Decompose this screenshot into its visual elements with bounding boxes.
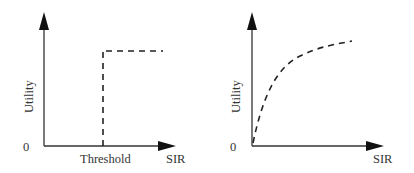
- concave-dashed-curve: [253, 41, 352, 143]
- origin-label: 0: [23, 140, 29, 154]
- y-axis-label: Utility: [229, 80, 243, 113]
- x-axis-label: SIR: [373, 152, 393, 166]
- threshold-label: Threshold: [80, 152, 131, 166]
- y-axis-arrow-icon: [247, 12, 257, 30]
- x-axis-arrow-icon: [366, 141, 384, 151]
- y-axis-label: Utility: [22, 80, 36, 113]
- utility-diagram: Utility 0 Threshold SIR Utility 0 SIR: [0, 0, 414, 173]
- origin-label: 0: [230, 140, 236, 154]
- y-axis-arrow-icon: [39, 12, 49, 30]
- x-axis-arrow-icon: [158, 141, 176, 151]
- step-utility-panel: Utility 0 Threshold SIR: [22, 12, 186, 166]
- concave-utility-panel: Utility 0 SIR: [229, 12, 393, 166]
- x-axis-label: SIR: [166, 152, 186, 166]
